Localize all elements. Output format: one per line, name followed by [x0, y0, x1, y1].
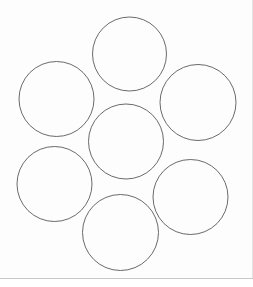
footer-band [0, 279, 253, 287]
figure-canvas [0, 0, 253, 287]
circle-packing-figure [0, 0, 253, 287]
canvas-background [0, 0, 253, 287]
